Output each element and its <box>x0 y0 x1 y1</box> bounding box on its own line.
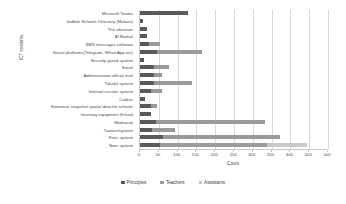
legend-item-teachers[interactable]: Teachers <box>160 180 184 185</box>
bar-row <box>140 134 327 142</box>
bar-row <box>140 49 327 57</box>
bar-segment-principles <box>140 73 154 77</box>
y-tick-label: Jeddah Schools Directory (Makani) <box>66 18 133 26</box>
gridline <box>328 10 329 149</box>
x-tick-mark <box>158 150 159 152</box>
legend-item-principles[interactable]: Principles <box>121 180 146 185</box>
chart-legend: PrinciplesTeachersAssistants <box>0 180 346 185</box>
bar-row <box>140 41 327 49</box>
bar-segment-principles <box>140 34 147 38</box>
bar-row <box>140 96 327 104</box>
bar-row <box>140 10 327 18</box>
stacked-bar <box>140 81 192 85</box>
stacked-bar <box>140 34 147 38</box>
stacked-bar <box>140 143 307 147</box>
stacked-bar <box>140 112 151 116</box>
bar-chart: ICT systems Microsoft TeamsJeddah School… <box>0 0 346 204</box>
stacked-bar <box>140 97 145 101</box>
bar-segment-principles <box>140 143 160 147</box>
bar-segment-teachers <box>149 42 160 46</box>
stacked-bar <box>140 89 162 93</box>
y-tick-label: Statistical snapshot spatial data for sc… <box>51 103 133 111</box>
bar-row <box>140 33 327 41</box>
bar-segment-teachers <box>156 120 265 124</box>
y-tick-label: Microsoft Teams <box>102 10 133 18</box>
bar-segment-principles <box>140 89 151 93</box>
bar-row <box>140 127 327 135</box>
bar-row <box>140 142 327 150</box>
bar-segment-principles <box>140 27 147 31</box>
y-tick-label: Email <box>122 64 133 72</box>
legend-swatch-icon <box>199 181 203 185</box>
bar-segment-teachers <box>157 50 202 54</box>
legend-label: Principles <box>127 180 147 185</box>
bar-row <box>140 111 327 119</box>
bar-segment-principles <box>140 104 151 108</box>
bar-segment-principles <box>140 65 154 69</box>
y-tick-label: Noor system <box>109 142 133 150</box>
bar-segment-teachers <box>151 89 162 93</box>
stacked-bar <box>140 27 147 31</box>
bar-row <box>140 103 327 111</box>
bar-segment-principles <box>140 58 144 62</box>
legend-swatch-icon <box>160 181 164 185</box>
y-tick-label: Administration official mail <box>83 72 133 80</box>
legend-label: Assistants <box>204 180 225 185</box>
bar-row <box>140 18 327 26</box>
bar-segment-principles <box>140 42 149 46</box>
y-tick-label: Madrasati <box>114 119 133 127</box>
x-axis-title: Count <box>139 161 327 166</box>
legend-swatch-icon <box>121 181 125 185</box>
x-tick-label: 300 <box>248 152 255 157</box>
x-tick-label: 500 <box>323 152 330 157</box>
y-tick-label: Faris system <box>109 134 133 142</box>
bar-segment-teachers <box>163 135 280 139</box>
stacked-bar <box>140 50 202 54</box>
stacked-bar <box>140 42 160 46</box>
x-tick-label: 400 <box>286 152 293 157</box>
stacked-bar <box>140 58 144 62</box>
y-tick-label: Takaful system <box>105 80 133 88</box>
bar-row <box>140 119 327 127</box>
x-tick-label: 350 <box>267 152 274 157</box>
x-tick-label: 250 <box>229 152 236 157</box>
bar-segment-principles <box>140 135 163 139</box>
bar-segment-assistants <box>267 143 308 147</box>
bar-segment-teachers <box>152 128 175 132</box>
bar-row <box>140 72 327 80</box>
x-tick-mark <box>139 150 140 152</box>
y-tick-label: Tawasulsystem <box>104 127 133 135</box>
plot-area <box>139 10 327 150</box>
bar-segment-principles <box>140 81 154 85</box>
legend-label: Teachers <box>166 180 185 185</box>
bar-segment-principles <box>140 11 188 15</box>
bar-row <box>140 26 327 34</box>
y-tick-label: Gateway equipment School <box>80 111 133 119</box>
stacked-bar <box>140 128 175 132</box>
y-tick-label: Cadres <box>119 96 133 104</box>
stacked-bar <box>140 120 265 124</box>
stacked-bar <box>140 73 162 77</box>
x-tick-label: 150 <box>192 152 199 157</box>
y-tick-label: Al Marhal <box>115 33 133 41</box>
bar-row <box>140 88 327 96</box>
x-tick-label: 100 <box>173 152 180 157</box>
y-tick-label: SMS messages software <box>85 41 133 49</box>
legend-item-assistants[interactable]: Assistants <box>199 180 225 185</box>
bar-segment-teachers <box>154 65 168 69</box>
x-tick-mark <box>252 150 253 152</box>
bar-row <box>140 80 327 88</box>
y-tick-label: Social platforms(Telegram, WhatsApp etc) <box>53 49 133 57</box>
bar-segment-principles <box>140 120 156 124</box>
x-tick-mark <box>327 150 328 152</box>
x-tick-label: 200 <box>211 152 218 157</box>
x-tick-mark <box>195 150 196 152</box>
x-tick-mark <box>271 150 272 152</box>
x-tick-label: 50 <box>155 152 160 157</box>
y-tick-label: The observer <box>108 26 133 34</box>
bar-segment-principles <box>140 97 145 101</box>
bar-segment-principles <box>140 50 157 54</box>
x-tick-mark <box>308 150 309 152</box>
x-tick-mark <box>177 150 178 152</box>
y-axis-tick-labels: Microsoft TeamsJeddah Schools Directory … <box>0 10 136 150</box>
